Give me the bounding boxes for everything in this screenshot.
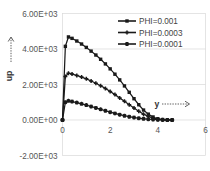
y-axis-tick-label: -2.00E+03	[19, 152, 57, 161]
data-point-marker	[127, 115, 131, 119]
data-point-marker	[128, 91, 131, 94]
legend-label-1: PHI=0.0003	[139, 29, 183, 38]
data-point-marker	[161, 118, 165, 122]
data-point-marker	[75, 101, 79, 105]
data-point-marker	[123, 84, 126, 87]
data-point-marker	[125, 42, 129, 46]
data-point-marker	[146, 117, 150, 121]
data-point-marker	[70, 100, 74, 104]
data-point-marker	[108, 67, 111, 70]
data-point-marker	[99, 58, 102, 61]
data-point-marker	[84, 103, 88, 107]
data-point-marker	[89, 79, 93, 83]
data-point-marker	[85, 46, 88, 49]
data-point-marker	[142, 117, 146, 121]
data-point-marker	[156, 118, 160, 122]
data-point-marker	[75, 39, 78, 42]
data-point-marker	[118, 113, 122, 117]
data-point-marker	[137, 103, 140, 106]
data-point-marker	[70, 37, 73, 40]
y-axis-title: up	[4, 71, 14, 82]
data-point-marker	[113, 111, 117, 115]
data-point-marker	[89, 105, 93, 109]
data-point-marker	[108, 110, 112, 114]
data-point-marker	[122, 114, 126, 118]
y-axis-tick-label: 4.00E+03	[22, 45, 58, 54]
data-point-marker	[125, 19, 128, 22]
chart-canvas: -2.00E+030.00E+002.00E+034.00E+036.00E+0…	[0, 0, 210, 171]
legend-entry-1[interactable]: PHI=0.0003	[118, 29, 183, 38]
legend-label-2: PHI=0.0001	[139, 40, 183, 49]
x-axis-tick-label: 6	[203, 126, 208, 135]
legend-entry-0[interactable]: PHI=0.001	[118, 17, 178, 26]
data-point-marker	[67, 35, 70, 38]
data-point-marker	[118, 78, 121, 81]
data-point-marker	[80, 42, 83, 45]
y-axis-tick-label: 6.00E+03	[22, 10, 58, 19]
data-point-marker	[64, 45, 67, 48]
data-point-marker	[103, 109, 107, 113]
data-point-marker	[165, 118, 169, 122]
x-axis-tick-label: 4	[156, 126, 161, 135]
data-point-marker	[170, 118, 174, 122]
data-point-marker	[84, 77, 88, 81]
data-point-marker	[66, 99, 70, 103]
chart-container: -2.00E+030.00E+002.00E+034.00E+036.00E+0…	[0, 0, 210, 171]
data-point-marker	[94, 53, 97, 56]
data-point-marker	[137, 116, 141, 120]
data-point-marker	[151, 118, 155, 122]
data-point-marker	[99, 107, 103, 111]
data-point-marker	[75, 73, 79, 77]
data-point-marker	[142, 108, 145, 111]
data-point-marker	[80, 102, 84, 106]
legend-label-0: PHI=0.001	[139, 17, 178, 26]
legend-entry-2[interactable]: PHI=0.0001	[118, 40, 183, 49]
y-axis-tick-label: 0.00E+00	[22, 116, 58, 125]
data-point-marker	[70, 72, 74, 76]
series-line-1	[63, 73, 173, 120]
x-axis-title: y	[155, 99, 160, 109]
y-axis-tick-label: 2.00E+03	[22, 81, 58, 90]
data-point-marker	[132, 116, 136, 120]
x-axis-tick-label: 2	[108, 126, 113, 135]
data-point-marker	[61, 118, 65, 122]
data-point-marker	[132, 97, 135, 100]
data-point-marker	[94, 106, 98, 110]
data-point-marker	[89, 49, 92, 52]
data-point-marker	[80, 75, 84, 79]
data-point-marker	[104, 62, 107, 65]
data-point-marker	[125, 31, 129, 35]
x-axis-tick-label: 0	[60, 126, 65, 135]
data-point-marker	[113, 73, 116, 76]
